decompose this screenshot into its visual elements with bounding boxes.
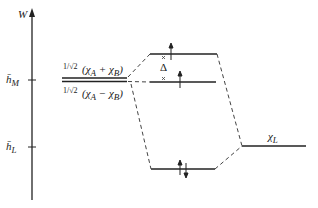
mo-diagram-canvas xyxy=(0,0,318,208)
correlation-lines xyxy=(128,54,242,169)
label-ligand-subscript: L xyxy=(273,135,278,145)
label-h-m: h̄M xyxy=(6,74,19,88)
label-h-l-subscript: L xyxy=(12,145,17,155)
label-metal-plus: (χA + χB) xyxy=(82,64,123,78)
electron-arrows xyxy=(169,43,188,178)
expr-open: (χ xyxy=(82,87,91,99)
axis-label-w: W xyxy=(18,9,27,20)
axis-arrow-icon xyxy=(29,8,35,17)
prefix-minus: 1/√2 xyxy=(63,87,78,95)
label-h-m-subscript: M xyxy=(12,78,20,88)
expr-close: ) xyxy=(119,63,123,75)
expr-op: + χ xyxy=(96,63,114,75)
prefix-plus: 1/√2 xyxy=(63,63,78,71)
expr-op: − χ xyxy=(96,87,114,99)
gap-label-delta: Δ xyxy=(160,62,167,73)
label-h-l: h̄L xyxy=(6,141,17,155)
expr-close: ) xyxy=(119,87,123,99)
expr-open: (χ xyxy=(82,63,91,75)
label-ligand: χL xyxy=(268,131,278,145)
label-metal-minus: (χA − χB) xyxy=(82,88,123,102)
